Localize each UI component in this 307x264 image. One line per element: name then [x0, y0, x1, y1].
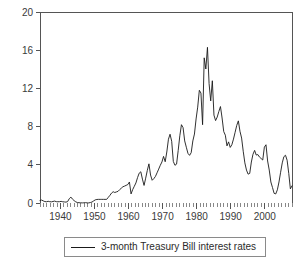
y-tick-label-20: 20: [22, 7, 34, 18]
y-axis-tick-labels: 048121620: [22, 7, 34, 209]
y-tick-label-12: 12: [22, 83, 34, 94]
chart-container: 048121620 1940195019601970198019902000 3…: [0, 0, 307, 264]
treasury-bill-line-chart: 048121620 1940195019601970198019902000: [0, 0, 307, 264]
legend-line-swatch-icon: [71, 242, 95, 252]
x-tick-label-1980: 1980: [186, 211, 209, 222]
axis-frame: [40, 12, 292, 203]
x-tick-label-1990: 1990: [220, 211, 243, 222]
x-tick-label-1970: 1970: [151, 211, 174, 222]
x-axis-minor-ticks: [40, 203, 292, 207]
x-tick-label-1960: 1960: [117, 211, 140, 222]
x-axis-tick-labels: 1940195019601970198019902000: [49, 211, 276, 222]
y-axis-ticks: [36, 12, 40, 203]
y-tick-label-0: 0: [27, 198, 33, 209]
plot-frame: [40, 12, 292, 203]
series-3-month-treasury-bill: [40, 47, 292, 203]
y-tick-label-4: 4: [27, 159, 33, 170]
x-tick-label-1950: 1950: [83, 211, 106, 222]
x-tick-label-1940: 1940: [49, 211, 72, 222]
y-tick-label-8: 8: [27, 121, 33, 132]
data-series-group: [40, 47, 292, 203]
chart-legend: 3-month Treasury Bill interest rates: [64, 237, 266, 257]
y-tick-label-16: 16: [22, 45, 34, 56]
x-tick-label-2000: 2000: [254, 211, 277, 222]
legend-label-treasury-bill: 3-month Treasury Bill interest rates: [101, 242, 256, 252]
